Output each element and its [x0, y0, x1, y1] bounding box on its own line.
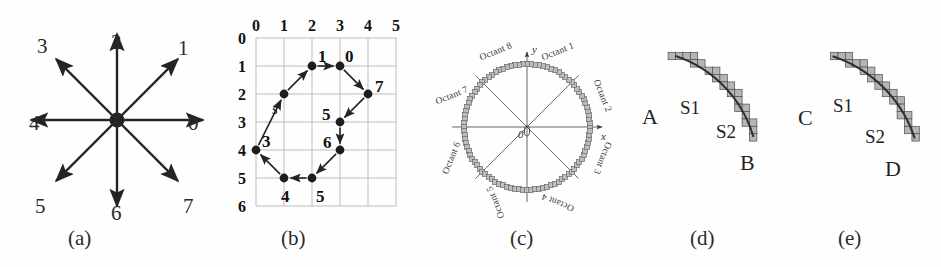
grid-row-label-6: 6 — [238, 199, 246, 215]
arc-label-D: D — [885, 158, 901, 180]
chain-vertex-dot — [308, 62, 317, 71]
chain-vertex-label-4: 4 — [281, 188, 290, 205]
figure-root: 01234567 0123450123456 s10756543 — [0, 0, 941, 267]
chain-segment — [288, 71, 308, 91]
direction-label-7: 7 — [183, 196, 194, 217]
arc-label-S1: S1 — [680, 98, 700, 117]
direction-label-4: 4 — [29, 113, 40, 134]
axis-label-x: x — [601, 131, 606, 142]
arc-pixel — [897, 97, 904, 104]
direction-arrow-5 — [56, 120, 117, 181]
circle-pixel — [587, 128, 592, 133]
panel-e-arc-CD: CS1S2D — [775, 0, 941, 215]
chain-vertex-dot — [280, 174, 289, 183]
arc-pixel — [713, 67, 720, 74]
direction-label-6: 6 — [111, 203, 122, 224]
arc-pixel — [750, 119, 757, 126]
grid-row-label-0: 0 — [238, 31, 246, 47]
arc-label-S1: S1 — [833, 96, 853, 115]
chain-vertex-label-3: 3 — [262, 133, 271, 150]
direction-arrow-1 — [117, 59, 178, 120]
direction-arrow-3 — [56, 59, 117, 120]
caption-c: (c) — [510, 228, 533, 249]
octant-axes — [452, 52, 602, 202]
arc-pixel — [690, 52, 697, 59]
arc-pixel — [845, 52, 852, 59]
grid-col-label-3: 3 — [336, 18, 344, 34]
direction-label-2: 2 — [111, 32, 122, 53]
grid-col-label-1: 1 — [280, 18, 288, 34]
chain-vertex-label-7: 7 — [375, 78, 384, 95]
arc-pixel — [668, 52, 675, 59]
panel-c-octant-circle: Octant 1Octant 2Octant 3Octant 4Octant 5… — [405, 0, 625, 215]
chain-vertex-dot — [336, 118, 345, 127]
caption-a: (a) — [68, 228, 91, 249]
star-center-dot — [110, 113, 125, 128]
chain-vertex-dot — [364, 90, 373, 99]
panel-b-chain-code-grid: 0123450123456 s10756543 — [210, 0, 400, 215]
chain-vertex-label-5: 5 — [322, 106, 331, 123]
axis-label-y: y — [532, 44, 537, 55]
chain-vertex-dot — [252, 146, 261, 155]
chain-vertex-dot — [308, 174, 317, 183]
grid-col-label-2: 2 — [308, 18, 316, 34]
direction-label-1: 1 — [178, 38, 189, 59]
arc-pixel — [735, 89, 742, 96]
chain-segment — [344, 70, 364, 90]
origin-label: 0 — [518, 129, 524, 140]
chain-vertex-dot — [280, 90, 289, 99]
chain-vertex-label-6: 6 — [323, 134, 332, 151]
panel-c-canvas — [405, 0, 625, 215]
panel-a-canvas — [0, 0, 200, 215]
chain-vertex-label-s: s — [272, 102, 278, 117]
grid-row-label-4: 4 — [238, 143, 246, 159]
chain-vertex-label-0: 0 — [345, 48, 354, 65]
arc-label-S2: S2 — [865, 127, 885, 146]
caption-b: (b) — [281, 228, 306, 249]
grid-col-label-5: 5 — [392, 18, 400, 34]
grid-row-label-3: 3 — [238, 115, 246, 131]
panel-a-direction-star: 01234567 — [0, 0, 200, 215]
arc-label-A: A — [642, 106, 658, 128]
chain-segment — [345, 98, 365, 118]
arc-label-C: C — [798, 107, 813, 129]
panel-d-arc-AB: AS1S2B — [620, 0, 780, 215]
direction-label-3: 3 — [37, 36, 48, 57]
arc-pixel — [868, 67, 875, 74]
grid-row-label-1: 1 — [238, 59, 246, 75]
direction-label-0: 0 — [188, 113, 199, 134]
chain-vertex-dot — [336, 146, 345, 155]
chain-segment — [317, 154, 337, 174]
chain-segment — [261, 155, 281, 175]
chain-vertex-dot — [336, 62, 345, 71]
caption-e: (e) — [838, 228, 861, 249]
arc-label-B: B — [740, 152, 755, 174]
arc-pixel — [860, 60, 867, 67]
chain-vertex-label-5: 5 — [316, 188, 325, 205]
grid-row-label-2: 2 — [238, 87, 246, 103]
arc-label-S2: S2 — [716, 122, 736, 141]
grid-col-label-4: 4 — [364, 18, 372, 34]
grid-col-label-0: 0 — [252, 18, 260, 34]
arc-pixel — [727, 82, 734, 89]
arc-pixel — [720, 75, 727, 82]
caption-d: (d) — [690, 228, 715, 249]
grid-row-label-5: 5 — [238, 171, 246, 187]
chain-vertex-label-1: 1 — [318, 48, 327, 65]
direction-label-5: 5 — [35, 196, 46, 217]
direction-arrow-7 — [117, 120, 178, 181]
